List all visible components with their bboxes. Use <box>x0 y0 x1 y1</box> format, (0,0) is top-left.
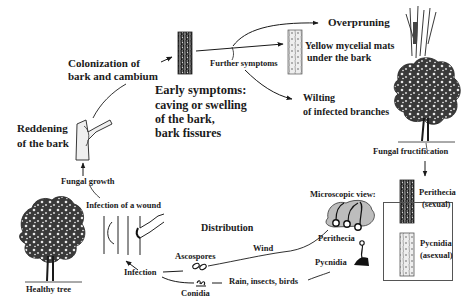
yellow-mats-line2: under the bark <box>305 52 394 64</box>
conidia-label: Conidia <box>181 289 210 299</box>
healthy-tree-label: Healthy tree <box>26 285 71 295</box>
pycnidia-line1: Pycnidia <box>420 239 453 249</box>
overpruning-label: Overpruning <box>328 16 390 29</box>
overpruning-illustration <box>406 6 436 58</box>
further-symptoms-label: Further symptoms <box>210 59 278 69</box>
micro-pycnidia-label: Pycnidia <box>315 258 347 268</box>
yellow-mats-line1: Yellow mycelial mats <box>305 40 394 52</box>
ascospores-icon <box>192 262 207 270</box>
early-symptoms-line2: of the bark, <box>155 113 247 127</box>
pycnidia-asexual-label: Pycnidia (asexual) <box>420 239 453 261</box>
ascospores-label: Ascospores <box>175 252 215 262</box>
reddening-line1: Reddening <box>17 122 69 135</box>
mycelial-mat-bark-illustration <box>288 30 302 74</box>
perithecia-line1: Perithecia <box>419 188 456 198</box>
early-symptoms-title: Early symptoms: <box>155 83 247 97</box>
fungal-fructification-label: Fungal fructification <box>373 147 448 157</box>
colonized-bark-illustration <box>178 32 192 74</box>
reddening-line2: of the bark <box>17 137 69 150</box>
microscopic-view-label: Microscopic view: <box>310 190 376 200</box>
yellow-mats-label: Yellow mycelial mats under the bark <box>305 40 394 63</box>
healthy-tree-illustration <box>20 197 85 282</box>
micro-perithecia-label: Perithecia <box>318 234 355 244</box>
microscopic-perithecia-illustration <box>326 200 374 230</box>
perithecia-line2: (sexual) <box>419 200 456 210</box>
colonization-line2: bark and cambium <box>68 70 158 83</box>
reddening-bark-illustration <box>76 120 112 160</box>
early-symptoms-line1: caving or swelling <box>155 99 247 113</box>
wilting-label: Wilting of infected branches <box>303 92 389 117</box>
wound-branch-illustration <box>128 214 164 255</box>
wilting-line2: of infected branches <box>303 106 389 118</box>
distribution-label: Distribution <box>201 222 253 234</box>
fungal-growth-label: Fungal growth <box>61 177 114 187</box>
colonization-label: Colonization of bark and cambium <box>68 57 158 82</box>
wind-label: Wind <box>253 244 273 254</box>
infected-tree-illustration <box>394 58 460 142</box>
reddening-label: Reddening of the bark <box>17 122 69 149</box>
perithecia-sexual-label: Perithecia (sexual) <box>419 188 456 210</box>
pycnidia-line2: (asexual) <box>420 251 453 261</box>
wound-bark-illustration <box>104 216 118 254</box>
colonization-line1: Colonization of <box>68 57 158 70</box>
rain-insects-birds-label: Rain, insects, birds <box>229 277 298 287</box>
early-symptoms-label: Early symptoms: caving or swelling of th… <box>155 83 247 141</box>
microscopic-pycnidia-illustration <box>354 241 369 266</box>
infection-of-wound-label: Infection of a wound <box>86 201 161 211</box>
conidia-icon <box>196 281 206 286</box>
early-symptoms-line3: bark fissures <box>155 127 247 141</box>
wilting-line1: Wilting <box>303 92 389 104</box>
infection-label: Infection <box>124 268 157 278</box>
